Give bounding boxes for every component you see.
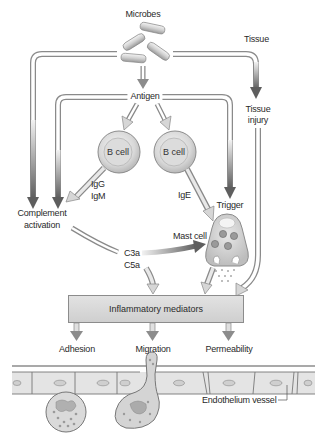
arrow-c5a-to-mediators — [146, 268, 159, 294]
arrow-microbes-to-tissue-injury — [173, 54, 262, 99]
label-migration: Migration — [135, 344, 170, 355]
label-c3a: C3a — [124, 248, 140, 259]
arrow-microbes-to-antigen — [137, 66, 149, 89]
label-c5a: C5a — [124, 260, 140, 271]
label-igg: IgG — [91, 179, 105, 190]
label-b-cell-right: B cell — [163, 147, 185, 157]
arrow-complement-to-c3a — [72, 228, 118, 252]
arrow-tissue-injury-to-mediators — [236, 128, 258, 296]
label-tissue: Tissue — [244, 34, 269, 45]
label-microbes: Microbes — [126, 9, 161, 20]
released-granules — [215, 269, 235, 282]
label-tissue-injury-line1: Tissue — [246, 104, 271, 115]
arrow-mediators-to-permeability — [222, 323, 235, 341]
label-ige: IgE — [178, 190, 191, 201]
arrow-mediators-to-migration — [146, 323, 159, 341]
label-igm: IgM — [91, 191, 105, 202]
label-tissue-injury-line2: injury — [248, 115, 268, 126]
adhering-leukocyte — [46, 392, 86, 432]
arrow-mediators-to-adhesion — [70, 323, 83, 341]
arrow-b-cell-to-mast-cell — [187, 169, 214, 221]
microbes-icon — [121, 22, 171, 64]
label-permeability: Permeability — [205, 344, 252, 355]
label-endothelium-vessel: Endothelium vessel — [202, 395, 276, 406]
label-inflammatory-mediators: Inflammatory mediators — [109, 304, 203, 314]
label-trigger: Trigger — [217, 200, 244, 211]
arrow-mast-cell-to-mediators — [201, 268, 213, 294]
inflammatory-mediators-box: Inflammatory mediators — [68, 295, 244, 323]
arrow-antigen-to-b-cells — [122, 104, 171, 130]
label-complement-line2: activation — [24, 220, 60, 231]
label-antigen: Antigen — [127, 91, 162, 102]
label-b-cell-left: B cell — [107, 147, 129, 157]
mast-cell — [206, 214, 249, 266]
label-mast-cell: Mast cell — [173, 231, 207, 242]
label-adhesion: Adhesion — [59, 344, 95, 355]
label-complement-line1: Complement — [17, 208, 66, 219]
